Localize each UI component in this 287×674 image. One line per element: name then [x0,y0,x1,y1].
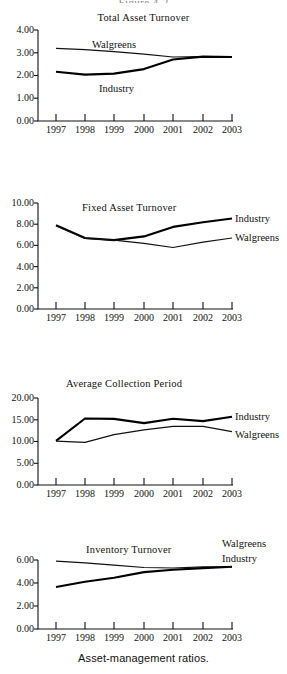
x-tick-label: 1998 [70,633,100,643]
y-tick-label: 6.00 [0,240,34,250]
y-tick-label: 2.00 [0,283,34,293]
x-tick-label: 1997 [41,633,71,643]
series-label-industry-3: Industry [235,411,270,422]
x-tick-label: 2003 [217,633,247,643]
x-tick-label: 2001 [158,633,188,643]
y-tick-label: 4.00 [0,262,34,272]
series-label-walgreens-4: Walgreens [222,538,266,549]
chart-panel-inventory-turnover: Inventory Turnover 6.00 4.00 2.00 0.00 1… [0,510,287,650]
x-tick-label: 2002 [188,125,218,135]
chart-plot-4 [0,510,287,650]
series-label-walgreens-1: Walgreens [92,39,136,50]
y-tick-label: 4.00 [0,25,34,35]
x-tick-label: 2000 [129,125,159,135]
series-label-industry-4: Industry [222,553,257,564]
x-tick-label: 2000 [129,633,159,643]
y-tick-label: 20.00 [0,393,34,403]
y-tick-label: 4.00 [0,578,34,588]
x-tick-label: 2003 [217,313,247,323]
y-tick-label: 0.00 [0,624,34,634]
x-tick-label: 2003 [217,125,247,135]
x-tick-label: 1997 [41,313,71,323]
y-tick-label: 0.00 [0,116,34,126]
y-tick-label: 1.00 [0,93,34,103]
chart-panel-average-collection-period: Average Collection Period 20.00 15.00 10… [0,340,287,500]
x-tick-label: 2001 [158,489,188,499]
y-tick-label: 2.00 [0,70,34,80]
x-tick-label: 1998 [70,125,100,135]
y-tick-label: 2.00 [0,601,34,611]
y-tick-label: 6.00 [0,555,34,565]
y-tick-label: 5.00 [0,458,34,468]
y-tick-label: 0.00 [0,480,34,490]
chart-plot-2 [0,170,287,330]
figure-page: Figure 4-2 Total Asset Turnover 4 [0,0,287,674]
x-tick-label: 2000 [129,313,159,323]
series-label-industry-1: Industry [99,83,134,94]
y-tick-label: 3.00 [0,48,34,58]
x-tick-label: 2000 [129,489,159,499]
y-tick-label: 8.00 [0,219,34,229]
x-tick-label: 1998 [70,489,100,499]
series-label-industry-2: Industry [235,213,270,224]
series-label-walgreens-3: Walgreens [235,429,279,440]
series-label-walgreens-2: Walgreens [235,232,279,243]
x-tick-label: 2002 [188,489,218,499]
y-tick-label: 15.00 [0,415,34,425]
y-tick-label: 0.00 [0,304,34,314]
x-tick-label: 1997 [41,489,71,499]
x-tick-label: 2001 [158,313,188,323]
x-tick-label: 1999 [99,125,129,135]
x-tick-label: 1999 [99,633,129,643]
x-tick-label: 1997 [41,125,71,135]
x-tick-label: 2002 [188,633,218,643]
chart-panel-total-asset-turnover: Total Asset Turnover 4.00 3.00 2.00 [0,0,287,150]
y-tick-label: 10.00 [0,436,34,446]
figure-caption: Asset-management ratios. [0,652,287,664]
chart-panel-fixed-asset-turnover: Fixed Asset Turnover 10.00 8.00 6.00 4. [0,170,287,330]
y-tick-label: 10.00 [0,198,34,208]
x-tick-label: 2003 [217,489,247,499]
x-tick-label: 2001 [158,125,188,135]
x-tick-label: 1999 [99,313,129,323]
x-tick-label: 1998 [70,313,100,323]
x-tick-label: 2002 [188,313,218,323]
x-tick-label: 1999 [99,489,129,499]
